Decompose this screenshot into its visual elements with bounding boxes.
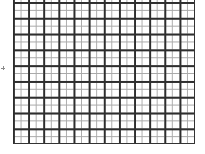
graph-paper-grid <box>13 0 195 144</box>
plus-mark-icon <box>1 66 5 70</box>
